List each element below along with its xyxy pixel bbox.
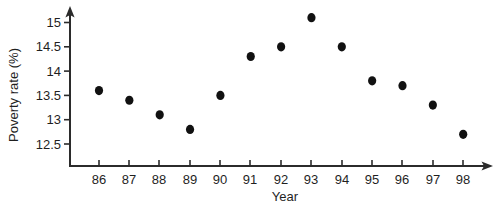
data-point: [95, 86, 103, 95]
data-point: [307, 13, 315, 22]
y-tick-label: 14: [47, 64, 61, 79]
x-tick-label: 87: [122, 172, 136, 187]
x-axis-title: Year: [272, 189, 299, 204]
x-tick-label: 97: [426, 172, 440, 187]
y-tick-label: 12.5: [36, 137, 61, 152]
y-axis: [65, 6, 74, 166]
x-axis-tick-labels: 86 87 88 89 90 91 92 93 94 95 96 97 98: [92, 172, 470, 187]
x-tick-label: 88: [152, 172, 166, 187]
y-tick-label: 13.5: [36, 88, 61, 103]
x-tick-label: 93: [304, 172, 318, 187]
y-tick-label: 15: [47, 15, 61, 30]
plot-canvas: 15 14.5 14 13.5 13 12.5 86 87: [0, 0, 503, 211]
data-point: [216, 91, 224, 100]
x-tick-label: 86: [92, 172, 106, 187]
x-tick-label: 95: [365, 172, 379, 187]
data-point: [277, 42, 285, 51]
y-axis-title: Poverty rate (%): [6, 48, 21, 142]
scatter-chart-figure: 15 14.5 14 13.5 13 12.5 86 87: [0, 0, 503, 211]
data-point: [429, 101, 437, 110]
data-point: [125, 96, 133, 105]
x-tick-label: 89: [183, 172, 197, 187]
x-tick-label: 92: [274, 172, 288, 187]
y-tick-label: 14.5: [36, 39, 61, 54]
data-point: [459, 130, 467, 139]
x-tick-label: 91: [243, 172, 257, 187]
data-point: [368, 76, 376, 85]
x-tick-label: 94: [335, 172, 349, 187]
x-tick-label: 98: [456, 172, 470, 187]
y-tick-label: 13: [47, 112, 61, 127]
data-point: [247, 52, 255, 61]
data-point: [338, 42, 346, 51]
data-points-layer: [95, 13, 467, 139]
data-point: [398, 81, 406, 90]
x-tick-label: 96: [395, 172, 409, 187]
y-axis-tick-labels: 15 14.5 14 13.5 13 12.5: [36, 15, 61, 152]
data-point: [186, 125, 194, 134]
x-tick-label: 90: [213, 172, 227, 187]
data-point: [156, 110, 164, 119]
